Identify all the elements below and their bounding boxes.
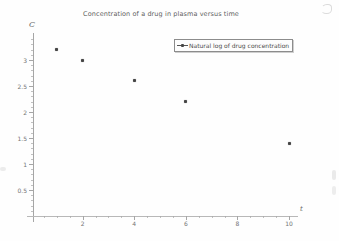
x-minor-tick [108,216,109,218]
chart-canvas: Concentration of a drug in plasma versus… [0,0,339,241]
scan-artifact [332,186,336,195]
y-minor-tick [31,200,33,201]
y-minor-tick [31,122,33,123]
y-tick-label: 1.5 [5,135,27,142]
data-point [81,59,84,62]
y-minor-tick [31,55,33,56]
scan-artifact [332,170,336,180]
x-axis [27,216,298,217]
y-major-tick [29,86,33,87]
y-minor-tick [31,169,33,170]
x-tick-label: 6 [179,220,193,227]
legend-label: Natural log of drug concentration [189,42,289,49]
y-minor-tick [31,154,33,155]
y-minor-tick [31,117,33,118]
x-minor-tick [173,216,174,218]
y-tick-label: 0.5 [5,187,27,194]
x-minor-tick [250,216,251,218]
y-minor-tick [31,211,33,212]
y-minor-tick [31,50,33,51]
x-minor-tick [225,216,226,218]
y-minor-tick [31,76,33,77]
y-tick-label: 3 [5,57,27,64]
y-minor-tick [31,159,33,160]
y-minor-tick [31,107,33,108]
x-tick-label: 2 [76,220,90,227]
legend-line-marker-icon [177,42,188,49]
y-minor-tick [31,102,33,103]
y-tick-label: 2.5 [5,83,27,90]
x-tick-label: 10 [282,220,296,227]
x-axis-label: t [300,205,303,213]
y-minor-tick [31,70,33,71]
data-point [184,100,187,103]
chart-title: Concentration of a drug in plasma versus… [0,10,322,18]
x-minor-tick [263,216,264,218]
y-axis [33,33,34,222]
legend: Natural log of drug concentration [174,39,293,52]
x-minor-tick [121,216,122,218]
y-minor-tick [31,44,33,45]
y-minor-tick [31,148,33,149]
y-minor-tick [31,133,33,134]
y-major-tick [29,138,33,139]
y-minor-tick [31,96,33,97]
x-minor-tick [147,216,148,218]
x-minor-tick [160,216,161,218]
y-minor-tick [31,128,33,129]
data-point [133,79,136,82]
x-tick-label: 8 [230,220,244,227]
y-minor-tick [31,185,33,186]
x-tick-label: 4 [127,220,141,227]
y-minor-tick [31,39,33,40]
x-minor-tick [276,216,277,218]
y-minor-tick [31,91,33,92]
x-minor-tick [70,216,71,218]
x-minor-tick [57,216,58,218]
y-minor-tick [31,206,33,207]
y-minor-tick [31,174,33,175]
x-minor-tick [212,216,213,218]
y-major-tick [29,164,33,165]
data-point [288,142,291,145]
y-major-tick [29,112,33,113]
y-minor-tick [31,143,33,144]
y-minor-tick [31,81,33,82]
y-minor-tick [31,180,33,181]
data-point [55,48,58,51]
x-minor-tick [199,216,200,218]
y-tick-label: 1 [5,161,27,168]
y-major-tick [29,190,33,191]
scan-artifact [321,4,332,14]
x-minor-tick [44,216,45,218]
y-axis-label: C [29,20,35,29]
y-minor-tick [31,195,33,196]
y-major-tick [29,60,33,61]
y-minor-tick [31,65,33,66]
x-minor-tick [96,216,97,218]
y-tick-label: 2 [5,109,27,116]
